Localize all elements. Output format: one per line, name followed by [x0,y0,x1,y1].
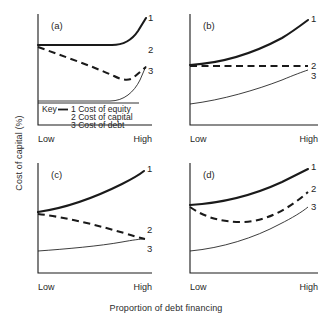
panel-d-curve-2-cost-of-capital [190,192,308,222]
panel-c-curve-3-cost-of-debt [38,239,145,251]
key-legend: Key 1 Cost of equity 2 Cost of capital 3… [42,104,133,130]
panel-b-curve-label-3: 3 [311,70,316,81]
panel-c: (c) 1 2 3 Low High [38,163,152,292]
panel-d-label: (d) [203,169,215,180]
panel-d-tick-high: High [299,282,318,292]
key-title: Key [42,104,58,114]
panel-d-curve-label-3: 3 [311,201,316,212]
panel-d: (d) 1 2 3 Low High [190,161,318,292]
panel-b-label: (b) [203,20,215,31]
charts-svg: (a) 1 2 3 Key 1 Cost of equity 2 Cost of… [0,0,332,327]
key-entry-3: 3 Cost of debt [71,120,125,130]
panel-c-tick-low: Low [38,282,55,292]
panel-c-curve-label-3: 3 [147,243,152,254]
panel-a-tick-low: Low [38,134,55,144]
x-axis-title: Proportion of debt financing [0,303,332,313]
panel-d-tick-low: Low [190,282,207,292]
panel-b-curve-3-cost-of-debt [190,70,308,104]
panel-b-tick-low: Low [190,134,207,144]
panel-a-tick-high: High [133,134,152,144]
panel-c-label: (c) [51,169,62,180]
panel-d-curve-3-cost-of-debt [190,207,308,251]
y-axis-title: Cost of capital (%) [14,78,24,228]
panel-c-curve-2-cost-of-capital [38,214,145,239]
panel-a-curve-label-3: 3 [148,65,153,76]
panel-a-label: (a) [51,20,63,31]
panel-d-curve-label-1: 1 [311,161,316,172]
panel-a-curve-2-cost-of-capital [38,47,146,80]
panel-c-curve-label-2: 2 [147,224,152,235]
panel-a-curve-label-2: 2 [148,44,153,55]
panel-b-curve-label-1: 1 [311,13,316,24]
panel-a-curve-label-1: 1 [148,12,153,23]
panel-d-curve-label-2: 2 [311,183,316,194]
panel-b-tick-high: High [299,134,318,144]
panel-c-tick-high: High [133,282,152,292]
panel-c-curve-label-1: 1 [147,163,152,174]
panel-b: (b) 1 2 3 Low High [190,13,318,144]
figure-cost-of-capital: Cost of capital (%) Proportion of debt f… [0,0,332,327]
panel-a-curve-3-cost-of-debt [38,66,146,101]
panel-a: (a) 1 2 3 Key 1 Cost of equity 2 Cost of… [38,12,153,144]
